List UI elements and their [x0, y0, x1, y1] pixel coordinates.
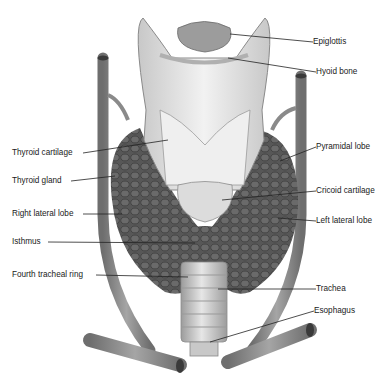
label-cricoid-cartilage: Cricoid cartilage — [316, 186, 375, 196]
label-fourth-tracheal-ring: Fourth tracheal ring — [12, 270, 83, 280]
label-thyroid-gland: Thyroid gland — [12, 176, 62, 186]
label-hyoid-bone: Hyoid bone — [316, 67, 357, 77]
label-left-lateral-lobe: Left lateral lobe — [316, 216, 372, 226]
label-trachea: Trachea — [316, 284, 346, 294]
label-thyroid-cartilage: Thyroid cartilage — [12, 148, 73, 158]
label-isthmus: Isthmus — [12, 237, 41, 247]
label-pyramidal-lobe: Pyramidal lobe — [316, 142, 370, 152]
trachea — [181, 262, 227, 356]
label-right-lateral-lobe: Right lateral lobe — [12, 209, 73, 219]
label-epiglottis: Epiglottis — [313, 37, 346, 47]
label-esophagus: Esophagus — [314, 306, 355, 316]
